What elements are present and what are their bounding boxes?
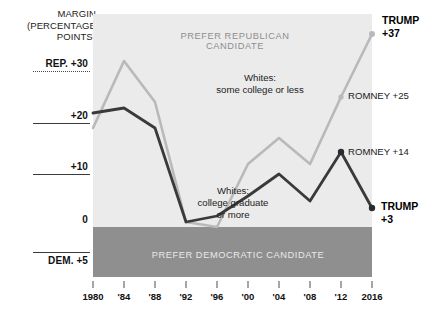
series-label-some-college-line-1: Whites:	[200, 72, 320, 84]
callout-trump-3-line-2: +3	[381, 213, 418, 226]
series-label-college-graduate-line-2: college graduate	[178, 197, 288, 209]
datapoint-trump-37	[369, 31, 375, 37]
callout-trump-3-line-1: TRUMP	[381, 200, 418, 213]
series-label-college-graduate-line-1: Whites:	[178, 185, 288, 197]
datapoint-romney-14	[338, 149, 344, 155]
callout-trump-37: TRUMP +37	[382, 14, 419, 39]
x-axis-ticks	[93, 281, 372, 288]
series-label-college-graduate: Whites: college graduate or more	[178, 185, 288, 221]
series-label-some-college-line-2: some college or less	[200, 84, 320, 96]
callout-trump-37-line-2: +37	[382, 27, 419, 40]
band-label-prefer-republican: PREFER REPUBLICAN CANDIDATE	[150, 31, 320, 51]
series-label-some-college: Whites: some college or less	[200, 72, 320, 96]
datapoint-romney-25	[338, 94, 343, 99]
series-label-college-graduate-line-3: or more	[178, 209, 288, 221]
callout-romney-25: ROMNEY +25	[348, 90, 409, 101]
x-tick-label-2016: 2016	[352, 291, 392, 302]
band-label-prefer-democratic: PREFER DEMOCRATIC CANDIDATE	[138, 250, 338, 260]
callout-trump-37-line-1: TRUMP	[382, 14, 419, 27]
chart-container: MARGIN (PERCENTAGE POINTS) REP. +30 +20 …	[0, 0, 428, 313]
datapoint-trump-3	[369, 205, 375, 211]
callout-trump-3: TRUMP +3	[381, 200, 418, 225]
callout-romney-14: ROMNEY +14	[348, 146, 409, 157]
